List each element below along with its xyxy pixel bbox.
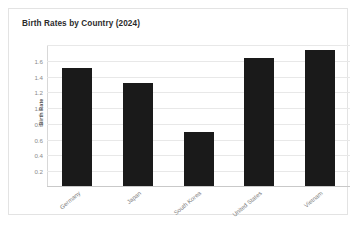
y-axis-tick-label: 1.0: [34, 105, 43, 112]
y-axis-tick-label: 0.6: [34, 136, 43, 143]
x-axis-tick-label: Germany: [58, 190, 81, 210]
y-axis-tick-label: 0.4: [34, 152, 43, 159]
chart-title: Birth Rates by Country (2024): [22, 19, 140, 28]
plot-area: 0.20.40.60.81.01.21.41.6 GermanyJapanSou…: [47, 45, 350, 187]
gridline: [47, 45, 350, 46]
y-axis-tick-label: 0.8: [34, 120, 43, 127]
bar[interactable]: [123, 83, 153, 186]
chart-card: Birth Rates by Country (2024) Birth Rate…: [8, 8, 348, 215]
y-axis-tick-label: 1.4: [34, 73, 43, 80]
y-axis-tick-label: 0.2: [34, 168, 43, 175]
x-axis-line: [47, 186, 350, 187]
bar[interactable]: [62, 68, 92, 186]
x-axis-tick-label: United States: [231, 190, 262, 218]
bar[interactable]: [184, 132, 214, 186]
x-axis-tick-label: Vietnam: [303, 190, 324, 209]
bar[interactable]: [244, 58, 274, 186]
x-axis-tick-label: South Korea: [173, 190, 202, 216]
y-axis-tick-label: 1.6: [34, 57, 43, 64]
y-axis-line: [47, 45, 48, 187]
bar[interactable]: [305, 50, 335, 186]
x-axis-tick-label: Japan: [125, 190, 141, 205]
y-axis-tick-label: 1.2: [34, 89, 43, 96]
